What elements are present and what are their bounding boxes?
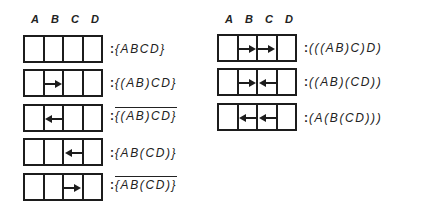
cell-c [258,36,278,60]
cell-d [84,140,102,164]
cell-b [45,71,65,95]
colon: : [110,76,114,90]
cell-c [64,140,84,164]
bracketing-box [23,69,103,97]
cell-c [258,70,278,94]
bracketing-box [217,34,297,62]
arrow-left-icon [262,82,276,84]
colon: : [304,41,308,55]
bracketing-label: :{(AB)CD} [110,76,177,90]
cell-c [64,106,84,130]
cell-a [25,37,45,61]
cell-a [219,36,239,60]
colon: : [110,178,114,192]
bracketing-box [23,173,103,201]
bracketing-box [23,138,103,166]
expression: ((AB)(CD)) [309,75,382,89]
expression-overlined: {(AB)CD} [115,107,177,123]
cell-b [45,37,65,61]
bracketing-label: :(A(B(CD))) [304,111,382,125]
cell-a [25,71,45,95]
cell-a [25,106,45,130]
cell-d [84,106,102,130]
colon: : [110,146,114,160]
bracketing-label-negated: :{(AB)CD} [110,109,177,123]
cell-b [45,175,65,199]
header-d: D [85,13,105,25]
cell-b [239,70,259,94]
bracketing-box [23,35,103,63]
arrow-right-icon [45,83,59,85]
bracketing-box [217,68,297,96]
expression-overlined: {AB(CD)} [115,176,177,192]
cell-a [219,105,239,129]
arrow-right-icon [258,48,272,50]
arrow-left-icon [262,117,276,119]
cell-a [219,70,239,94]
cell-b [239,105,259,129]
bracketing-label-negated: :{AB(CD)} [110,178,177,192]
arrow-right-icon [239,82,253,84]
expression: (((AB)C)D) [309,41,382,55]
bracketing-label: :{AB(CD)} [110,146,177,160]
expression: (A(B(CD))) [309,111,382,125]
arrow-right-icon [239,48,253,50]
cell-a [25,140,45,164]
cell-b [239,36,259,60]
bracketing-box [217,103,297,131]
expression: {(AB)CD} [115,76,177,90]
bracketing-label: :{ABCD} [110,42,166,56]
cell-b [45,106,65,130]
expression: {ABCD} [115,42,166,56]
bracketing-box [23,104,103,132]
arrow-left-icon [48,118,62,120]
cell-d [278,36,296,60]
cell-c [64,71,84,95]
arrow-right-icon [64,187,78,189]
colon: : [110,42,114,56]
cell-c [64,37,84,61]
header-a: A [219,13,239,25]
cell-d [84,37,102,61]
cell-d [84,175,102,199]
cell-d [278,70,296,94]
bracketing-label: :((AB)(CD)) [304,75,382,89]
expression: {AB(CD)} [115,146,177,160]
header-b: B [45,13,65,25]
cell-d [84,71,102,95]
arrow-left-icon [68,152,82,154]
colon: : [110,109,114,123]
header-a: A [25,13,45,25]
bracketing-label: :(((AB)C)D) [304,41,382,55]
cell-c [258,105,278,129]
cell-d [278,105,296,129]
colon: : [304,111,308,125]
colon: : [304,75,308,89]
cell-b [45,140,65,164]
arrow-left-icon [242,117,256,119]
header-c: C [259,13,279,25]
header-b: B [239,13,259,25]
cell-c [64,175,84,199]
header-d: D [279,13,299,25]
cell-a [25,175,45,199]
header-c: C [65,13,85,25]
